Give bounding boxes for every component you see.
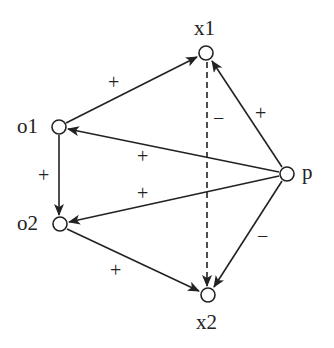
node-o1: [52, 120, 66, 134]
node-x1: [199, 46, 213, 60]
label-x2: x2: [196, 312, 217, 333]
node-x2: [201, 288, 215, 302]
label-p: p: [302, 162, 313, 183]
sign-p-x1: +: [255, 103, 266, 123]
graph-canvas: [0, 0, 334, 348]
edge-o1-x1: [66, 57, 197, 123]
edge-o2-x2: [67, 229, 199, 291]
label-o1: o1: [17, 116, 38, 137]
sign-p-o2: +: [137, 183, 148, 203]
sign-x1-x2: −: [213, 108, 224, 128]
node-p: [280, 167, 294, 181]
edge-p-o1: [68, 129, 279, 172]
node-o2: [53, 217, 67, 231]
edge-p-o2: [69, 176, 279, 222]
sign-p-o1: +: [137, 146, 148, 166]
label-x1: x1: [194, 18, 215, 39]
edge-p-x2: [214, 181, 282, 287]
sign-o1-o2: +: [38, 165, 49, 185]
sign-p-x2: −: [257, 226, 268, 246]
sign-o2-x2: +: [110, 260, 121, 280]
label-o2: o2: [17, 213, 38, 234]
sign-o1-x1: +: [108, 72, 119, 92]
